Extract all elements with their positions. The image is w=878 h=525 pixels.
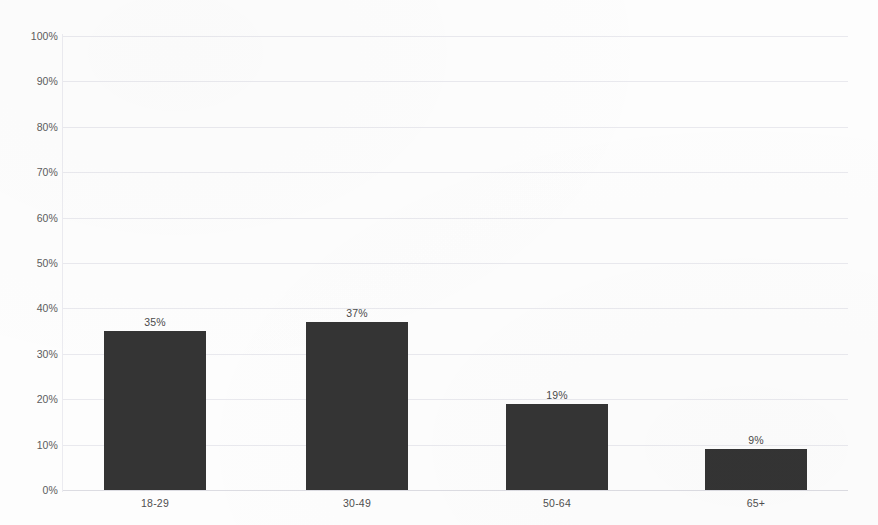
y-tick-label-100: 100% [2, 30, 58, 42]
y-tick-label-30: 30% [2, 348, 58, 360]
gridline-50 [63, 263, 848, 264]
bar-65plus[interactable] [705, 449, 807, 490]
bar-50-64[interactable] [506, 404, 608, 490]
y-axis-tick-labels: 100% 90% 80% 70% 60% 50% 40% 30% 20% 10%… [0, 36, 58, 490]
y-tick-label-40: 40% [2, 302, 58, 314]
bar-value-label-18-29: 35% [104, 316, 206, 328]
x-tick-label-65plus: 65+ [705, 497, 807, 509]
x-tick-label-50-64: 50-64 [506, 497, 608, 509]
gridline-60 [63, 218, 848, 219]
gridline-40 [63, 308, 848, 309]
gridline-100 [63, 36, 848, 37]
y-tick-label-70: 70% [2, 166, 58, 178]
y-tick-label-80: 80% [2, 121, 58, 133]
gridline-0 [63, 490, 848, 491]
bar-value-label-65plus: 9% [705, 434, 807, 446]
y-tick-label-90: 90% [2, 75, 58, 87]
y-tick-label-0: 0% [2, 484, 58, 496]
y-tick-label-50: 50% [2, 257, 58, 269]
bar-value-label-30-49: 37% [306, 307, 408, 319]
gridline-70 [63, 172, 848, 173]
bar-18-29[interactable] [104, 331, 206, 490]
bar-value-label-50-64: 19% [506, 389, 608, 401]
x-tick-label-18-29: 18-29 [104, 497, 206, 509]
gridline-80 [63, 127, 848, 128]
y-tick-label-10: 10% [2, 439, 58, 451]
bar-30-49[interactable] [306, 322, 408, 490]
y-tick-label-60: 60% [2, 212, 58, 224]
x-tick-label-30-49: 30-49 [306, 497, 408, 509]
plot-area: 35% 37% 19% 9% [63, 36, 848, 490]
gridline-90 [63, 81, 848, 82]
bar-chart: 100% 90% 80% 70% 60% 50% 40% 30% 20% 10%… [0, 0, 878, 525]
y-tick-label-20: 20% [2, 393, 58, 405]
